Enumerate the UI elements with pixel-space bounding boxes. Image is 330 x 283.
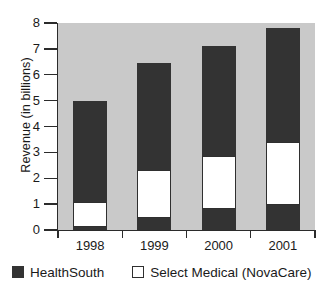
x-tick-3: [250, 231, 251, 238]
y-tick-8: [44, 22, 57, 23]
x-label-2000: 2000: [189, 238, 249, 253]
y-axis-line: [57, 23, 58, 231]
y-tick-7: [44, 48, 57, 49]
y-tick-label-4: 4: [14, 120, 40, 133]
x-label-2001: 2001: [253, 238, 313, 253]
bar-segment-healthsouth-base-1998: [73, 227, 107, 230]
bar-group-1998: [73, 101, 107, 230]
y-tick-6: [44, 74, 57, 75]
y-tick-3: [44, 152, 57, 153]
bar-segment-select-medical-2001: [266, 142, 300, 205]
y-tick-label-1: 1: [14, 197, 40, 210]
x-label-1998: 1998: [60, 238, 120, 253]
y-tick-label-8: 8: [14, 16, 40, 29]
y-tick-label-6: 6: [14, 68, 40, 81]
bar-group-2000: [202, 46, 236, 230]
y-tick-4: [44, 126, 57, 127]
x-tick-0: [57, 231, 58, 238]
y-tick-1: [44, 203, 57, 204]
legend-swatch-open-square-icon: [132, 266, 144, 278]
y-tick-label-3: 3: [14, 145, 40, 158]
legend-label-healthsouth: HealthSouth: [30, 265, 104, 280]
y-tick-5: [44, 100, 57, 101]
y-tick-2: [44, 178, 57, 179]
legend-item-select-medical: Select Medical (NovaCare): [132, 265, 311, 280]
x-tick-1: [122, 231, 123, 238]
bar-segment-select-medical-2000: [202, 156, 236, 209]
bar-segment-select-medical-1998: [73, 202, 107, 228]
bar-segment-healthsouth-upper-2000: [202, 46, 236, 156]
y-tick-label-2: 2: [14, 171, 40, 184]
legend-swatch-filled-square-icon: [12, 266, 24, 278]
legend-item-healthsouth: HealthSouth: [12, 265, 104, 280]
bar-group-1999: [137, 63, 171, 230]
bar-segment-healthsouth-upper-2001: [266, 28, 300, 142]
chart-legend: HealthSouth Select Medical (NovaCare): [12, 263, 324, 281]
y-tick-label-5: 5: [14, 94, 40, 107]
bar-segment-healthsouth-base-1999: [137, 218, 171, 230]
bar-group-2001: [266, 28, 300, 230]
bar-segment-select-medical-1999: [137, 170, 171, 218]
y-tick-0: [44, 229, 57, 230]
revenue-stacked-bar-chart: Revenue (in billions) 012345678 19981999…: [0, 0, 330, 283]
x-tick-2: [186, 231, 187, 238]
bar-segment-healthsouth-base-2001: [266, 205, 300, 230]
bar-segment-healthsouth-upper-1999: [137, 63, 171, 170]
x-axis-line: [44, 230, 316, 231]
legend-label-select-medical: Select Medical (NovaCare): [150, 265, 311, 280]
y-tick-label-0: 0: [14, 223, 40, 236]
x-tick-4: [314, 231, 315, 238]
bar-segment-healthsouth-base-2000: [202, 209, 236, 230]
x-label-1999: 1999: [124, 238, 184, 253]
y-tick-label-7: 7: [14, 42, 40, 55]
bar-segment-healthsouth-upper-1998: [73, 101, 107, 202]
